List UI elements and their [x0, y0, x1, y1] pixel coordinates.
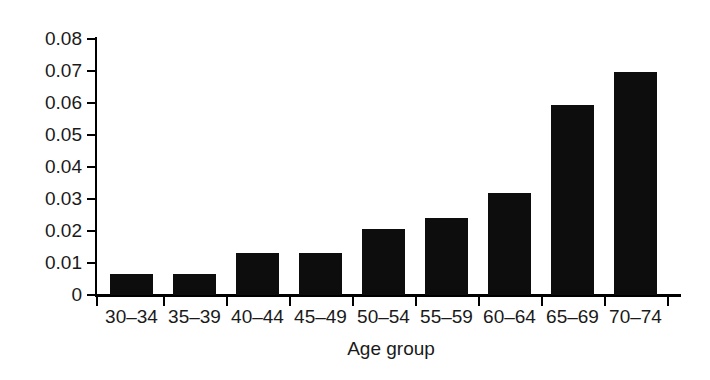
- x-tick-mark-origin: [96, 297, 98, 306]
- y-tick-mark: [87, 198, 96, 200]
- x-tick-mark: [289, 297, 291, 306]
- y-tick-label: 0.06: [18, 93, 82, 112]
- bar-chart: 00.010.020.030.040.050.060.070.08 30–343…: [0, 0, 710, 380]
- x-tick-mark: [541, 297, 543, 306]
- y-tick-label: 0: [18, 285, 82, 304]
- y-tick-label-text: 0.05: [20, 125, 82, 144]
- y-tick-label-text: 0: [20, 285, 82, 304]
- bar: [110, 274, 153, 295]
- y-tick-label: 0.03: [18, 189, 82, 208]
- y-tick-label-text: 0.03: [20, 189, 82, 208]
- x-tick-label: 40–44: [223, 306, 293, 328]
- x-axis-title-text: Age group: [347, 338, 435, 360]
- y-tick-mark: [87, 294, 96, 296]
- bar: [362, 229, 405, 295]
- bar: [299, 253, 342, 295]
- x-tick-mark: [478, 297, 480, 306]
- x-tick-label: 30–34: [97, 306, 167, 328]
- y-tick-label: 0.07: [18, 61, 82, 80]
- y-tick-mark: [87, 262, 96, 264]
- y-tick-label: 0.04: [18, 157, 82, 176]
- y-tick-label: 0.05: [18, 125, 82, 144]
- y-tick-label-text: 0.06: [20, 93, 82, 112]
- bar: [551, 105, 594, 295]
- y-tick-mark: [87, 102, 96, 104]
- bar: [488, 193, 531, 295]
- x-tick-label: 60–64: [475, 306, 545, 328]
- y-tick-mark: [87, 230, 96, 232]
- y-tick-label-text: 0.02: [20, 221, 82, 240]
- bar: [614, 72, 657, 295]
- y-tick-label: 0.08: [18, 29, 82, 48]
- x-axis-title: Age group: [0, 338, 710, 360]
- x-tick-label: 50–54: [349, 306, 419, 328]
- y-tick-label-text: 0.04: [20, 157, 82, 176]
- x-tick-label: 55–59: [412, 306, 482, 328]
- y-tick-label-text: 0.01: [20, 253, 82, 272]
- x-tick-label: 35–39: [160, 306, 230, 328]
- bar: [425, 218, 468, 295]
- x-tick-mark: [163, 297, 165, 306]
- y-tick-label: 0.02: [18, 221, 82, 240]
- x-tick-mark: [352, 297, 354, 306]
- x-tick-label: 70–74: [601, 306, 671, 328]
- x-tick-mark: [604, 297, 606, 306]
- x-tick-label: 45–49: [286, 306, 356, 328]
- bar: [236, 253, 279, 295]
- x-tick-label: 65–69: [538, 306, 608, 328]
- y-tick-label-text: 0.07: [20, 61, 82, 80]
- y-tick-mark: [87, 134, 96, 136]
- y-tick-label: 0.01: [18, 253, 82, 272]
- x-tick-mark: [226, 297, 228, 306]
- x-tick-mark: [667, 297, 669, 306]
- x-tick-mark: [415, 297, 417, 306]
- bars-container: [96, 39, 680, 295]
- y-tick-mark: [87, 166, 96, 168]
- y-tick-mark: [87, 70, 96, 72]
- y-tick-label-text: 0.08: [20, 29, 82, 48]
- bar: [173, 274, 216, 295]
- y-tick-mark: [87, 38, 96, 40]
